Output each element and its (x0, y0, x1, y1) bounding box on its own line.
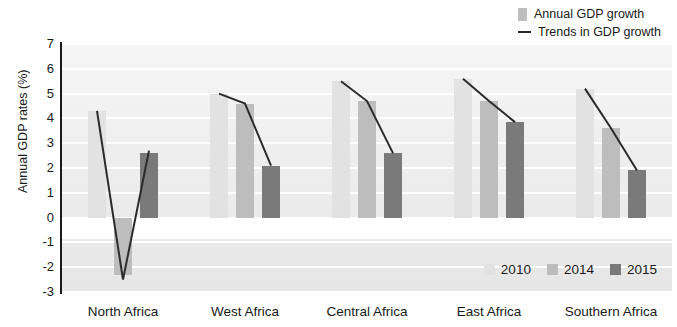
legend-year-item-2014[interactable]: 2014 (547, 262, 594, 277)
y-axis-tick-label: -3 (22, 285, 54, 298)
bar-2015-north-africa (140, 153, 158, 217)
gridline (62, 241, 672, 243)
x-category-central-africa: Central Africa (306, 304, 428, 319)
x-category-southern-africa: Southern Africa (550, 304, 672, 319)
legend-swatch-line-icon (518, 31, 531, 33)
y-axis-line (60, 42, 62, 294)
legend-swatch-2010-icon (484, 264, 495, 275)
y-axis-tick-label: 7 (22, 37, 54, 50)
legend-year-item-2015[interactable]: 2015 (610, 262, 657, 277)
legend-year-item-2010[interactable]: 2010 (484, 262, 531, 277)
bar-2014-east-africa (480, 101, 498, 218)
legend-top-label: Annual GDP growth (534, 6, 644, 22)
bar-2010-southern-africa (576, 89, 594, 218)
legend-top-item-0[interactable]: Annual GDP growth (518, 6, 661, 22)
bar-2015-west-africa (262, 166, 280, 218)
y-axis-tick-label: -2 (22, 260, 54, 273)
y-axis-tick-label: 0 (22, 211, 54, 224)
gridline (62, 43, 672, 45)
legend-swatch-box-icon (518, 8, 527, 21)
bar-2014-southern-africa (602, 128, 620, 217)
legend-series-top: Annual GDP growthTrends in GDP growth (518, 6, 661, 42)
bar-2010-west-africa (210, 94, 228, 218)
bar-2015-east-africa (506, 122, 524, 217)
bar-2014-north-africa (114, 218, 132, 275)
legend-year-label: 2014 (564, 262, 594, 277)
zero-band (62, 218, 672, 239)
bar-2014-west-africa (236, 104, 254, 218)
bar-2010-east-africa (454, 79, 472, 218)
x-category-east-africa: East Africa (428, 304, 550, 319)
gridline (62, 68, 672, 70)
bar-2015-central-africa (384, 153, 402, 217)
x-category-west-africa: West Africa (184, 304, 306, 319)
legend-swatch-2014-icon (547, 264, 558, 275)
legend-top-item-1[interactable]: Trends in GDP growth (518, 24, 661, 40)
legend-years-bottom: 201020142015 (468, 262, 657, 277)
bar-2014-central-africa (358, 101, 376, 218)
legend-top-label: Trends in GDP growth (538, 24, 661, 40)
y-axis-title: Annual GDP rates (%) (16, 69, 30, 192)
legend-year-label: 2015 (627, 262, 657, 277)
legend-year-label: 2010 (501, 262, 531, 277)
y-axis-tick-label: -1 (22, 235, 54, 248)
gdp-growth-chart: 76543210-1-2-3 Annual GDP rates (%) Nort… (0, 0, 677, 327)
x-category-north-africa: North Africa (62, 304, 184, 319)
bar-2015-southern-africa (628, 170, 646, 217)
gridline (62, 291, 672, 293)
legend-swatch-2015-icon (610, 264, 621, 275)
bar-2010-north-africa (88, 111, 106, 218)
bar-2010-central-africa (332, 81, 350, 217)
